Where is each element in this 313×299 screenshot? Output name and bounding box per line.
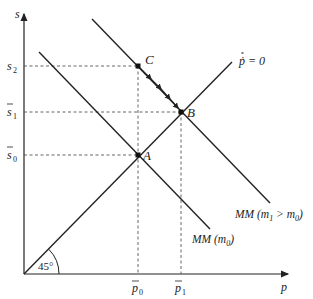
point-a-label: A	[142, 148, 151, 163]
point-c-marker	[136, 64, 141, 69]
x-tick-p1-bar: p 1	[174, 281, 186, 297]
guide-lines	[24, 66, 181, 274]
phase-diagram: A B C s p 45° s 2 s 1 s 0 p 0 p 1 ṗ = 0 …	[0, 0, 313, 299]
point-b-marker	[179, 110, 184, 115]
svg-text:s: s	[7, 105, 12, 119]
svg-text:MM (m1 > m0): MM (m1 > m0)	[234, 208, 303, 223]
point-a-marker	[136, 153, 141, 158]
svg-text:MM (m0): MM (m0)	[191, 233, 234, 248]
y-tick-s0-bar: s 0	[7, 147, 17, 164]
svg-text:1: 1	[13, 112, 17, 121]
pdot-zero-label: ṗ = 0	[238, 54, 265, 68]
svg-text:2: 2	[13, 66, 17, 75]
point-b-label: B	[187, 105, 195, 120]
x-tick-p0-bar: p 0	[131, 281, 143, 297]
svg-text:p: p	[131, 281, 138, 295]
mm-m0-line	[39, 52, 210, 229]
point-c-label: C	[145, 52, 154, 67]
svg-text:p: p	[174, 281, 181, 295]
mm-m1-label: MM (m1 > m0)	[234, 208, 303, 223]
y-tick-s2: s 2	[7, 59, 17, 75]
y-axis-label: s	[15, 7, 20, 21]
svg-text:s: s	[7, 59, 12, 73]
angle-label: 45°	[38, 260, 53, 272]
y-tick-s1-bar: s 1	[7, 104, 17, 121]
svg-text:0: 0	[139, 288, 143, 297]
mm-m0-label: MM (m0)	[191, 233, 234, 248]
svg-text:1: 1	[182, 288, 186, 297]
svg-text:s: s	[7, 148, 12, 162]
svg-text:0: 0	[13, 155, 17, 164]
x-axis-label: p	[280, 280, 287, 294]
